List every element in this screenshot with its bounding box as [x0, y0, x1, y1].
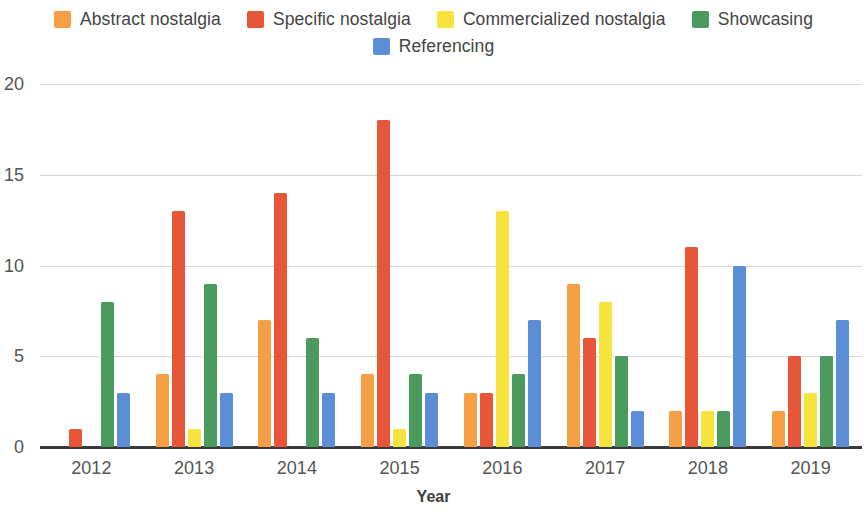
bar[interactable]: [528, 320, 541, 447]
bar[interactable]: [733, 266, 746, 448]
legend-item-label: Abstract nostalgia: [80, 9, 221, 30]
bar[interactable]: [377, 120, 390, 447]
chart-legend: Abstract nostalgiaSpecific nostalgiaComm…: [0, 0, 867, 60]
bar[interactable]: [409, 374, 422, 447]
legend-row-secondary: Referencing: [0, 33, 867, 60]
legend-item[interactable]: Showcasing: [692, 9, 813, 30]
bar[interactable]: [599, 302, 612, 447]
legend-row-primary: Abstract nostalgiaSpecific nostalgiaComm…: [0, 6, 867, 33]
bar-group: 2017: [554, 66, 657, 516]
bar[interactable]: [615, 356, 628, 447]
bar[interactable]: [188, 429, 201, 447]
y-axis-tick-label: 5: [0, 346, 24, 367]
legend-item-label: Referencing: [399, 36, 494, 57]
bar[interactable]: [685, 247, 698, 447]
bar-group: 2015: [348, 66, 451, 516]
x-axis-tick-label: 2013: [143, 458, 246, 479]
legend-swatch-icon: [437, 11, 454, 28]
chart-plot-area: 05101520 2012201320142015201620172018201…: [0, 66, 867, 516]
bar-group-bars: [40, 84, 143, 447]
bar[interactable]: [480, 393, 493, 447]
bar-group: 2018: [657, 66, 760, 516]
bar[interactable]: [172, 211, 185, 447]
bar[interactable]: [567, 284, 580, 447]
bar[interactable]: [274, 193, 287, 447]
bar[interactable]: [788, 356, 801, 447]
legend-item[interactable]: Commercialized nostalgia: [437, 9, 666, 30]
bar[interactable]: [393, 429, 406, 447]
x-axis-tick-label: 2014: [246, 458, 349, 479]
legend-item-label: Showcasing: [718, 9, 813, 30]
bar[interactable]: [583, 338, 596, 447]
bar-group: 2012: [40, 66, 143, 516]
bar-groups: 20122013201420152016201720182019: [40, 66, 862, 516]
bar[interactable]: [512, 374, 525, 447]
bar-group-bars: [246, 84, 349, 447]
bar[interactable]: [836, 320, 849, 447]
legend-swatch-icon: [373, 38, 390, 55]
legend-item-label: Specific nostalgia: [273, 9, 411, 30]
bar-group: 2014: [246, 66, 349, 516]
bar[interactable]: [772, 411, 785, 447]
y-axis-tick-label: 20: [0, 74, 24, 95]
bar[interactable]: [156, 374, 169, 447]
bar-group-bars: [143, 84, 246, 447]
legend-item[interactable]: Specific nostalgia: [247, 9, 411, 30]
bar-group: 2013: [143, 66, 246, 516]
bar[interactable]: [117, 393, 130, 447]
bar[interactable]: [631, 411, 644, 447]
x-axis-tick-label: 2017: [554, 458, 657, 479]
x-axis-title: Year: [0, 488, 867, 506]
x-axis-tick-label: 2019: [759, 458, 862, 479]
legend-swatch-icon: [692, 11, 709, 28]
y-axis-tick-label: 0: [0, 437, 24, 458]
bar[interactable]: [322, 393, 335, 447]
bar-group-bars: [657, 84, 760, 447]
bar[interactable]: [669, 411, 682, 447]
bar[interactable]: [804, 393, 817, 447]
bar-group: 2019: [759, 66, 862, 516]
x-axis-tick-label: 2018: [657, 458, 760, 479]
legend-item[interactable]: Abstract nostalgia: [54, 9, 221, 30]
bar[interactable]: [496, 211, 509, 447]
bar[interactable]: [425, 393, 438, 447]
x-axis-tick-label: 2015: [348, 458, 451, 479]
legend-swatch-icon: [54, 11, 71, 28]
bar[interactable]: [701, 411, 714, 447]
bar-group-bars: [451, 84, 554, 447]
bar[interactable]: [204, 284, 217, 447]
bar[interactable]: [306, 338, 319, 447]
bar[interactable]: [717, 411, 730, 447]
bar[interactable]: [361, 374, 374, 447]
legend-swatch-icon: [247, 11, 264, 28]
bar[interactable]: [220, 393, 233, 447]
x-axis-tick-label: 2016: [451, 458, 554, 479]
legend-item[interactable]: Referencing: [373, 36, 494, 57]
bar-group-bars: [554, 84, 657, 447]
x-axis-tick-label: 2012: [40, 458, 143, 479]
bar[interactable]: [69, 429, 82, 447]
bar[interactable]: [820, 356, 833, 447]
y-axis-tick-label: 15: [0, 164, 24, 185]
y-axis-tick-label: 10: [0, 255, 24, 276]
bar[interactable]: [464, 393, 477, 447]
bar[interactable]: [258, 320, 271, 447]
bar-group-bars: [348, 84, 451, 447]
bar-group: 2016: [451, 66, 554, 516]
legend-item-label: Commercialized nostalgia: [463, 9, 666, 30]
bar-group-bars: [759, 84, 862, 447]
bar[interactable]: [101, 302, 114, 447]
